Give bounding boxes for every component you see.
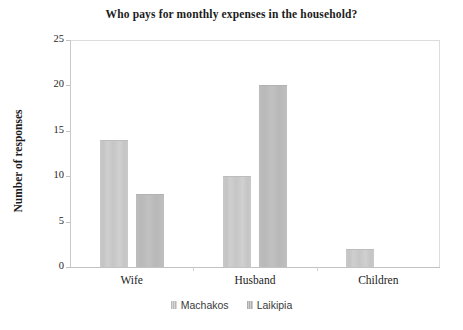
- y-tick-mark: [66, 131, 70, 132]
- bar-laikipia-wife: [136, 194, 164, 267]
- legend-item-machakos[interactable]: Machakos: [171, 299, 229, 311]
- legend-label: Machakos: [181, 299, 229, 311]
- bar-machakos-children: [346, 249, 374, 267]
- y-tick-label: 0: [36, 260, 64, 271]
- y-tick-label: 20: [36, 78, 64, 89]
- y-tick-mark: [66, 40, 70, 41]
- legend-item-laikipia[interactable]: Laikipia: [247, 299, 293, 311]
- y-tick-label: 5: [36, 215, 64, 226]
- x-tick-mark: [193, 267, 194, 271]
- legend-label: Laikipia: [257, 299, 293, 311]
- y-tick-mark: [66, 267, 70, 268]
- chart-figure: Who pays for monthly expenses in the hou…: [0, 0, 463, 330]
- x-tick-label: Husband: [205, 274, 305, 286]
- x-tick-label: Wife: [82, 274, 182, 286]
- legend-swatch-icon: [247, 301, 253, 309]
- x-axis-line: [70, 267, 440, 268]
- chart-legend: MachakosLaikipia: [0, 299, 463, 311]
- bar-laikipia-husband: [259, 85, 287, 267]
- bar-machakos-husband: [223, 176, 251, 267]
- bar-machakos-wife: [100, 140, 128, 267]
- x-tick-mark: [317, 267, 318, 271]
- y-tick-label: 25: [36, 33, 64, 44]
- y-axis-line: [70, 40, 71, 268]
- x-tick-label: Children: [328, 274, 428, 286]
- y-tick-mark: [66, 222, 70, 223]
- legend-swatch-icon: [171, 301, 177, 309]
- y-axis-tick-labels: 0510152025: [34, 0, 64, 330]
- y-axis-title: Number of responses: [12, 61, 24, 261]
- y-tick-label: 15: [36, 124, 64, 135]
- y-tick-mark: [66, 85, 70, 86]
- y-tick-label: 10: [36, 169, 64, 180]
- y-tick-mark: [66, 176, 70, 177]
- chart-title: Who pays for monthly expenses in the hou…: [0, 8, 463, 20]
